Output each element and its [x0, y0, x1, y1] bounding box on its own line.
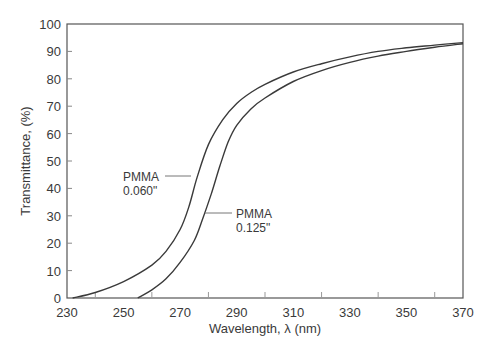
y-tick-label: 30 — [47, 209, 61, 224]
y-axis-title: Transmittance, (%) — [18, 106, 33, 215]
y-tick-label: 60 — [47, 127, 61, 142]
y-tick-label: 80 — [47, 72, 61, 87]
x-axis-title: Wavelength, λ (nm) — [209, 321, 321, 336]
y-tick-label: 50 — [47, 154, 61, 169]
y-tick-label: 90 — [47, 44, 61, 59]
x-axis-ticks: 230250270290310330350370 — [56, 292, 474, 320]
annotation-0125-line2: 0.125" — [236, 221, 270, 235]
y-tick-label: 40 — [47, 181, 61, 196]
x-tick-label: 310 — [282, 305, 304, 320]
plot-frame — [67, 24, 463, 298]
x-tick-label: 330 — [339, 305, 361, 320]
annotation-0060-line2: 0.060" — [123, 184, 157, 198]
x-tick-label: 370 — [452, 305, 474, 320]
annotation-0060-line1: PMMA — [123, 170, 159, 184]
x-tick-label: 350 — [396, 305, 418, 320]
y-tick-label: 70 — [47, 99, 61, 114]
transmittance-chart: 0102030405060708090100 23025027029031033… — [0, 0, 495, 356]
x-tick-label: 230 — [56, 305, 78, 320]
y-tick-label: 100 — [39, 17, 61, 32]
series-pmma-0125-line — [138, 44, 463, 298]
y-tick-label: 10 — [47, 264, 61, 279]
y-tick-label: 0 — [54, 291, 61, 306]
annotation-0125-line1: PMMA — [236, 207, 272, 221]
x-tick-label: 290 — [226, 305, 248, 320]
x-tick-label: 250 — [113, 305, 135, 320]
x-tick-label: 270 — [169, 305, 191, 320]
y-tick-label: 20 — [47, 236, 61, 251]
